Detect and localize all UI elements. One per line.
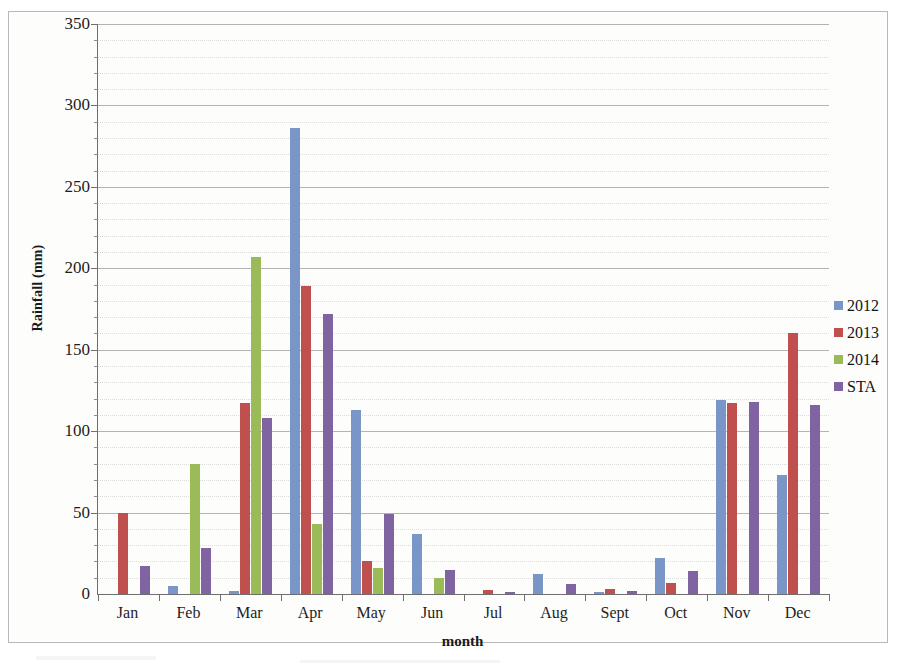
x-axis-tick-label: Oct: [645, 604, 706, 628]
bar-group: [281, 24, 342, 594]
x-axis-tick-label: Aug: [523, 604, 584, 628]
bar: [290, 128, 300, 594]
y-axis-tick-mark: [94, 545, 98, 546]
x-axis-tick-labels: JanFebMarAprMayJunJulAugSeptOctNovDec: [97, 604, 828, 628]
bar-group: [707, 24, 768, 594]
bar: [533, 574, 543, 594]
x-axis-tick-mark: [281, 594, 282, 601]
legend-label: STA: [847, 378, 876, 396]
legend-swatch-icon: [834, 301, 843, 310]
legend-swatch-icon: [834, 328, 843, 337]
y-axis-tick-mark: [91, 105, 98, 106]
x-axis-tick-label: Dec: [767, 604, 828, 628]
legend-item[interactable]: STA: [834, 373, 896, 400]
bar: [727, 403, 737, 594]
bar-group: [585, 24, 646, 594]
x-axis-tick-mark: [585, 594, 586, 601]
bar: [240, 403, 250, 594]
bar: [362, 561, 372, 594]
y-axis-tick-mark: [91, 513, 98, 514]
y-axis-tick-mark: [94, 219, 98, 220]
y-axis-tick-label: 0: [40, 584, 90, 604]
bar: [373, 568, 383, 594]
bar-group: [646, 24, 707, 594]
bar: [666, 583, 676, 594]
bar: [301, 286, 311, 594]
bar: [688, 571, 698, 594]
y-axis-tick-label: 200: [40, 258, 90, 278]
y-axis-tick-mark: [94, 333, 98, 334]
bar: [168, 586, 178, 594]
x-axis-tick-label: Feb: [158, 604, 219, 628]
y-axis-tick-mark: [91, 24, 98, 25]
x-axis-tick-marks: [98, 594, 829, 601]
y-axis-tick-mark: [94, 138, 98, 139]
y-axis-tick-mark: [94, 252, 98, 253]
x-axis-tick-label: Nov: [706, 604, 767, 628]
bar: [201, 548, 211, 594]
x-axis-tick-label: Jan: [97, 604, 158, 628]
x-axis-tick-mark: [98, 594, 99, 601]
y-axis-tick-mark: [91, 350, 98, 351]
y-axis-tick-mark: [94, 57, 98, 58]
x-axis-tick-label: Apr: [280, 604, 341, 628]
x-axis-tick-mark: [464, 594, 465, 601]
bar: [777, 475, 787, 594]
y-axis-tick-mark: [94, 382, 98, 383]
bar: [118, 513, 128, 594]
y-axis-tick-mark: [94, 89, 98, 90]
x-axis-tick-mark: [707, 594, 708, 601]
x-axis-tick-mark: [159, 594, 160, 601]
bar-group: [342, 24, 403, 594]
bar-group: [464, 24, 525, 594]
y-axis-tick-mark: [91, 268, 98, 269]
bar-group: [159, 24, 220, 594]
x-axis-tick-mark: [524, 594, 525, 601]
x-axis-tick-label: Jun: [402, 604, 463, 628]
y-axis-tick-mark: [91, 187, 98, 188]
y-axis-tick-mark: [94, 578, 98, 579]
y-axis-tick-labels: 050100150200250300350: [40, 14, 90, 594]
legend-item[interactable]: 2013: [834, 319, 896, 346]
y-axis-tick-mark: [94, 301, 98, 302]
bar-group: [403, 24, 464, 594]
y-axis-tick-mark: [94, 480, 98, 481]
y-axis-tick-label: 150: [40, 340, 90, 360]
y-axis-tick-mark: [94, 561, 98, 562]
scan-artifact: [300, 660, 500, 663]
bar-group: [524, 24, 585, 594]
plot-area: [97, 24, 829, 595]
x-axis-tick-mark: [768, 594, 769, 601]
y-axis-tick-mark: [94, 154, 98, 155]
legend-item[interactable]: 2014: [834, 346, 896, 373]
x-axis-tick-label: Jul: [463, 604, 524, 628]
y-axis-tick-mark: [94, 122, 98, 123]
legend-swatch-icon: [834, 382, 843, 391]
legend-item[interactable]: 2012: [834, 292, 896, 319]
y-axis-tick-mark: [94, 496, 98, 497]
y-axis-tick-label: 350: [40, 14, 90, 34]
bar-group: [98, 24, 159, 594]
bar: [384, 514, 394, 594]
y-axis-tick-mark: [94, 447, 98, 448]
x-axis-tick-mark: [403, 594, 404, 601]
y-axis-tick-mark: [94, 415, 98, 416]
bar: [312, 524, 322, 594]
bar: [716, 400, 726, 594]
x-axis-tick-label: May: [341, 604, 402, 628]
bar: [251, 257, 261, 594]
bar: [566, 584, 576, 594]
y-axis-tick-mark: [94, 236, 98, 237]
legend-label: 2012: [847, 297, 879, 315]
y-axis-tick-mark: [94, 317, 98, 318]
x-axis-tick-mark: [342, 594, 343, 601]
bar-group: [768, 24, 829, 594]
y-axis-tick-label: 300: [40, 95, 90, 115]
scan-artifact: [36, 656, 156, 660]
y-axis-tick-mark: [94, 464, 98, 465]
x-axis-tick-mark: [646, 594, 647, 601]
bar: [140, 566, 150, 594]
y-axis-tick-mark: [94, 399, 98, 400]
y-axis-tick-mark: [94, 285, 98, 286]
y-axis-tick-mark: [94, 529, 98, 530]
